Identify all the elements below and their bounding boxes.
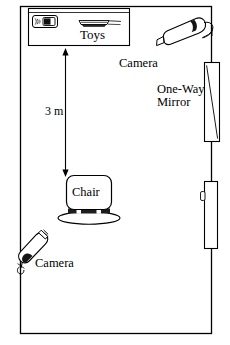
one-way-mirror-label-line2: Mirror [157, 96, 205, 109]
toy-handheld-device [33, 16, 58, 28]
chair-label: Chair [72, 186, 100, 199]
one-way-mirror [205, 63, 220, 142]
toys-label: Toys [80, 28, 105, 42]
chair [58, 176, 120, 225]
room-outline [21, 7, 212, 334]
room-diagram-svg [0, 0, 230, 345]
camera-top-right-label: Camera [119, 57, 158, 70]
distance-label: 3 m [45, 105, 63, 118]
camera-bottom-left-label: Camera [35, 257, 74, 270]
one-way-mirror-label: One-Way Mirror [157, 83, 205, 109]
diagram-canvas: Toys Camera One-Way Mirror 3 m Chair Cam… [0, 0, 230, 345]
